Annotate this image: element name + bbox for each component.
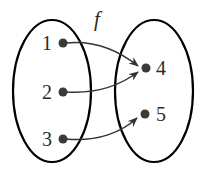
point-dot [59,88,68,97]
codomain-element-5: 5 [141,103,167,125]
codomain-set-ellipse [115,20,193,162]
mapping-arrow-1-to-4 [66,42,138,66]
function-label: f [94,7,103,31]
element-label: 2 [42,81,52,103]
domain-set-ellipse [13,20,91,162]
point-dot [141,110,150,119]
domain-element-1: 1 [42,32,68,54]
function-mapping-diagram: f 1 2 3 4 5 [0,0,197,176]
mapping-arrow-2-to-4 [66,72,138,92]
domain-element-2: 2 [42,81,68,103]
element-label: 5 [156,103,166,125]
element-label: 3 [42,128,52,150]
mapping-arrow-3-to-5 [66,118,137,140]
point-dot [142,64,151,73]
point-dot [59,135,68,144]
point-dot [59,39,68,48]
element-label: 4 [156,57,166,79]
codomain-element-4: 4 [142,57,167,79]
domain-element-3: 3 [42,128,68,150]
element-label: 1 [42,32,52,54]
